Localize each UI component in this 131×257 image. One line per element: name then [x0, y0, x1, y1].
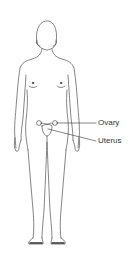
right-ovary — [53, 121, 58, 126]
head-outline — [36, 21, 56, 50]
ovary-label: Ovary — [98, 119, 119, 127]
left-ovary — [37, 121, 42, 126]
uterus-leader-line — [48, 129, 96, 141]
uterus-shape — [42, 125, 52, 137]
legs-outline — [28, 142, 66, 238]
torso-outline — [15, 49, 80, 150]
uterus-label: Uterus — [98, 137, 122, 145]
female-body-diagram — [0, 0, 131, 257]
feet-outline — [29, 238, 66, 244]
